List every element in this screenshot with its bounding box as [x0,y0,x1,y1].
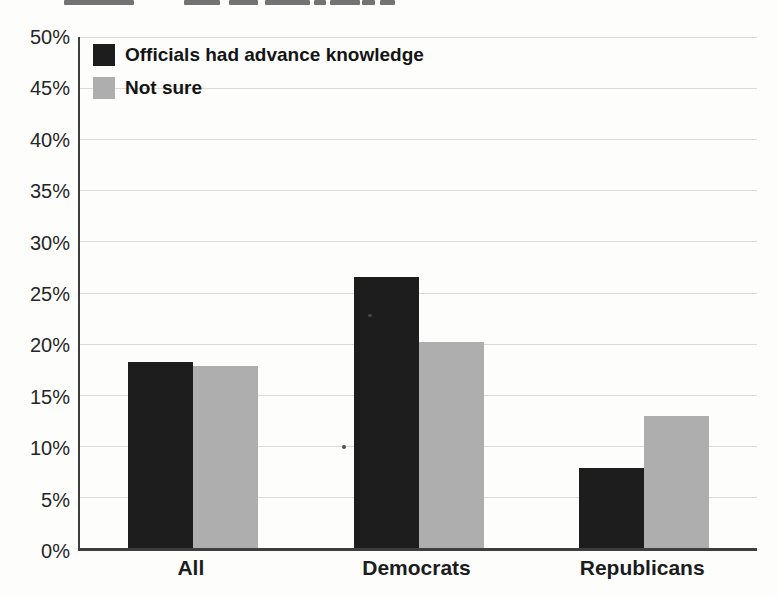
y-tick-label: 35% [0,179,70,203]
legend-swatch-gray [93,77,115,99]
cropped-title-fragment [314,0,326,5]
bar-not-sure-all [193,366,258,548]
cropped-title-fragment [229,0,258,5]
legend-item-officials: Officials had advance knowledge [93,44,424,66]
bar-not-sure-democrats [419,342,484,548]
x-tick-label-democrats: Democrats [327,556,507,580]
cropped-title-fragment [64,0,134,5]
bar-officials-democrats [354,277,419,548]
x-tick-label-all: All [101,556,281,580]
cropped-title-fragment [380,0,395,5]
cropped-title-fragment [265,0,310,5]
cropped-title-fragment [362,0,375,5]
plot-area: Officials had advance knowledge Not sure [78,37,757,551]
y-tick-label: 5% [0,488,70,512]
x-tick-label-republicans: Republicans [552,556,732,580]
gridline [80,37,757,38]
y-axis-labels: 0%5%10%15%20%25%30%35%40%45%50% [0,37,70,551]
y-tick-label: 10% [0,436,70,460]
legend-label: Officials had advance knowledge [125,44,424,66]
gridline [80,190,757,191]
gridline [80,293,757,294]
cropped-title-fragment [330,0,360,5]
y-tick-label: 0% [0,539,70,563]
legend: Officials had advance knowledge Not sure [93,44,424,99]
bar-officials-republicans [579,468,644,548]
bar-officials-all [128,362,193,548]
bar-not-sure-republicans [644,416,709,548]
scan-speck [342,445,346,449]
cropped-title-fragment [184,0,220,5]
gridline [80,139,757,140]
legend-item-not-sure: Not sure [93,77,424,99]
y-tick-label: 40% [0,128,70,152]
scan-speck [368,314,372,317]
y-tick-label: 15% [0,385,70,409]
y-tick-label: 50% [0,25,70,49]
y-tick-label: 45% [0,76,70,100]
y-tick-label: 20% [0,333,70,357]
legend-label: Not sure [125,77,202,99]
y-tick-label: 25% [0,282,70,306]
y-tick-label: 30% [0,231,70,255]
x-axis-labels: AllDemocratsRepublicans [78,556,757,586]
legend-swatch-black [93,44,115,66]
gridline [80,241,757,242]
